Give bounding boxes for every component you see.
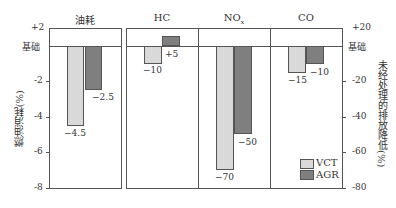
bar-hc-vct bbox=[144, 46, 162, 64]
legend-item-vct: VCT bbox=[300, 157, 339, 169]
panel-title-fuel: 油耗 bbox=[49, 12, 121, 27]
panel-hc bbox=[126, 28, 199, 189]
label-co-vct: −15 bbox=[288, 75, 307, 85]
bar-nox-vct bbox=[216, 46, 234, 170]
label-nox-agr: −50 bbox=[238, 137, 257, 147]
right-tick-2: -20 bbox=[352, 75, 367, 85]
label-co-agr: −10 bbox=[310, 67, 329, 77]
left-tick-1: 基础 bbox=[22, 40, 40, 53]
right-tick-0: +20 bbox=[352, 22, 371, 32]
bar-hc-agr bbox=[162, 36, 180, 46]
label-hc-vct: −10 bbox=[143, 65, 162, 75]
legend: VCT AGR bbox=[300, 157, 339, 180]
right-tick-1: 基础 bbox=[348, 40, 366, 53]
right-tickline-2 bbox=[343, 81, 346, 82]
right-tickline-5 bbox=[343, 188, 346, 189]
bar-fuel-agr bbox=[85, 46, 102, 90]
bar-nox-agr bbox=[234, 46, 252, 134]
legend-swatch-agr bbox=[300, 170, 314, 180]
left-tickline-5 bbox=[46, 188, 49, 189]
legend-swatch-vct bbox=[300, 159, 314, 169]
left-tickline-3 bbox=[46, 117, 49, 118]
right-axis-label: 未经处理的排放降低(%) bbox=[374, 60, 389, 167]
panel-title-co: CO bbox=[270, 12, 342, 23]
right-tick-3: -40 bbox=[352, 111, 367, 121]
left-tick-5: -8 bbox=[34, 182, 43, 192]
bar-fuel-vct bbox=[67, 46, 84, 126]
panel-title-hc: HC bbox=[126, 12, 198, 23]
left-axis-label: 燃油消耗(%) bbox=[12, 90, 27, 147]
left-tick-3: -4 bbox=[34, 111, 43, 121]
label-nox-vct: −70 bbox=[215, 172, 234, 182]
label-fuel-agr: −2.5 bbox=[92, 92, 114, 102]
panel-title-nox: NOx bbox=[198, 12, 270, 25]
right-tickline-3 bbox=[343, 117, 346, 118]
legend-item-agr: AGR bbox=[300, 169, 339, 181]
left-tick-2: -2 bbox=[34, 75, 43, 85]
left-tickline-2 bbox=[46, 81, 49, 82]
right-tickline-4 bbox=[343, 152, 346, 153]
left-tickline-4 bbox=[46, 152, 49, 153]
right-tick-4: -60 bbox=[352, 146, 367, 156]
label-hc-agr: +5 bbox=[165, 49, 178, 59]
right-tick-5: -80 bbox=[352, 182, 367, 192]
left-tick-0: +2 bbox=[31, 22, 44, 32]
left-tick-4: -6 bbox=[34, 146, 43, 156]
bar-co-vct bbox=[288, 46, 306, 73]
label-fuel-vct: −4.5 bbox=[64, 128, 86, 138]
bar-co-agr bbox=[306, 46, 324, 64]
